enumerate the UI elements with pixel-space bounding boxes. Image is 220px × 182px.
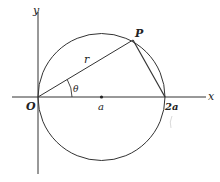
- x-axis-label: x: [208, 90, 215, 103]
- theta-label: θ: [73, 84, 79, 94]
- polar-circle-diagram: y x O a 2a P r θ: [0, 0, 220, 182]
- radius-label: r: [84, 53, 90, 66]
- segment-p-2a: [133, 40, 165, 97]
- angle-arc: [67, 80, 72, 98]
- point-p-label: P: [134, 27, 144, 40]
- y-axis-label: y: [32, 4, 40, 17]
- end-label: 2a: [164, 101, 178, 112]
- center-point: [100, 95, 103, 98]
- stray-mark: [170, 116, 172, 128]
- segment-op: [38, 40, 133, 97]
- origin-label: O: [26, 100, 36, 113]
- center-label: a: [98, 101, 104, 112]
